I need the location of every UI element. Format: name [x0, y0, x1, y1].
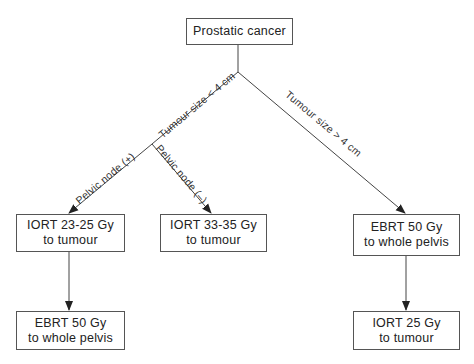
node-label: Prostatic cancer [193, 24, 286, 39]
node-label-line2: to whole pelvis [364, 235, 449, 250]
node-label-line2: to tumour [43, 233, 98, 248]
node-iort-33-35: IORT 33-35 Gy to tumour [160, 214, 267, 252]
node-label-line1: IORT 25 Gy [372, 316, 440, 331]
node-iort-23-25: IORT 23-25 Gy to tumour [16, 214, 125, 252]
node-label-line2: to tumour [186, 233, 241, 248]
node-ebrt-50-left: EBRT 50 Gy to whole pelvis [16, 311, 125, 350]
node-label-line1: EBRT 50 Gy [371, 220, 443, 235]
node-iort-25: IORT 25 Gy to tumour [353, 311, 460, 350]
node-ebrt-50-right: EBRT 50 Gy to whole pelvis [353, 214, 460, 256]
edge-tumour-large [238, 72, 405, 213]
node-label-line2: to whole pelvis [28, 331, 113, 346]
node-label-line2: to tumour [379, 331, 434, 346]
edges-layer [0, 0, 474, 364]
node-label-line1: IORT 33-35 Gy [170, 218, 257, 233]
node-label-line1: IORT 23-25 Gy [27, 218, 114, 233]
node-label-line1: EBRT 50 Gy [35, 316, 107, 331]
node-prostatic-cancer: Prostatic cancer [186, 18, 293, 45]
